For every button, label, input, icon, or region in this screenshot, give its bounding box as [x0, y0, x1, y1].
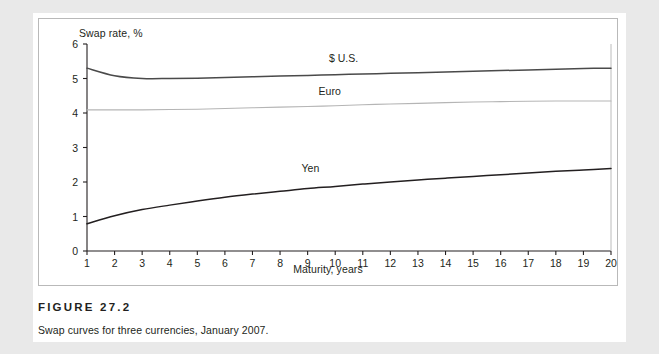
- y-tick-label: 1: [72, 211, 78, 223]
- y-tick-label: 5: [72, 73, 78, 85]
- figure-caption: Swap curves for three currencies, Januar…: [38, 324, 608, 336]
- series-line-euro: [87, 101, 611, 110]
- y-tick-label: 0: [72, 245, 78, 257]
- swap-curves-plot: 01234561234567891011121314151617181920$ …: [39, 19, 619, 287]
- y-tick-label: 2: [72, 176, 78, 188]
- figure-number: FIGURE 27.2: [38, 301, 608, 313]
- series-label-u-s: $ U.S.: [329, 52, 358, 64]
- series-label-euro: Euro: [319, 85, 341, 97]
- y-tick-label: 6: [72, 38, 78, 50]
- chart-frame: Swap rate, % 012345612345678910111213141…: [38, 18, 618, 286]
- y-tick-label: 4: [72, 107, 78, 119]
- y-tick-label: 3: [72, 142, 78, 154]
- caption-block: FIGURE 27.2 Swap curves for three curren…: [38, 301, 608, 336]
- x-axis-title: Maturity, years: [39, 263, 617, 275]
- series-line-yen: [87, 169, 611, 224]
- figure-card: Swap rate, % 012345612345678910111213141…: [33, 13, 626, 342]
- series-line-u-s: [87, 68, 611, 79]
- series-label-yen: Yen: [302, 162, 320, 174]
